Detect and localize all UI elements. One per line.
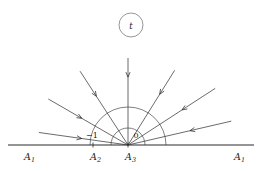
figure-canvas: t −10 A1A2A3A1 [0,0,262,171]
ray-3-arrowhead [92,91,96,96]
axis-label-group: A1A2A3A1 [23,151,245,164]
ray-6 [128,88,215,145]
ray-2-arrowhead [77,114,82,118]
angle-label-zero: 0 [133,131,138,140]
ray-6-arrowhead [182,106,187,110]
axis-label-a2: A2 [89,151,101,164]
axis-label-left-a1: A1 [23,151,35,164]
ray-5-arrowhead [160,89,164,94]
axis-label-right-a1: A1 [233,151,245,164]
node-marker-label: t [129,21,133,31]
angle-label-minus-one: −1 [86,131,98,140]
ray-7 [128,121,231,145]
axis-label-a3: A3 [124,151,136,164]
reflection-diagram-svg: t −10 A1A2A3A1 [0,0,262,171]
